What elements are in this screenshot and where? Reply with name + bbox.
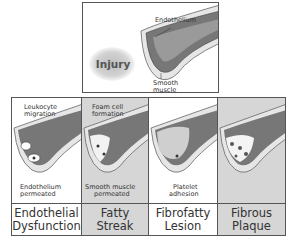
stage-label-line1: Fatty: [101, 207, 129, 220]
platelet-note-line2: adhesion: [169, 191, 199, 198]
stage-label-fatty-streak: Fatty Streak: [81, 203, 149, 236]
stage-label-line2: Lesion: [165, 220, 202, 233]
smooth-muscle-note-line2: permeated: [94, 191, 130, 198]
foam-cell-note-line2: formation: [92, 111, 124, 118]
stage-label-fibrofatty-lesion: Fibrofatty Lesion: [148, 203, 218, 236]
leukocyte-note-line2: migration: [24, 111, 55, 118]
stage-label-endothelial-dysfunction: Endothelial Dysfunction: [11, 203, 82, 236]
stage-panel-fatty-streak: Foam cell formation Smooth muscle permea…: [81, 97, 149, 204]
endothelium-note-line2: permeated: [20, 191, 56, 198]
stage-panel-fibrous-plaque: [217, 97, 286, 204]
stage-label-line2: Dysfunction: [12, 220, 81, 233]
healthy-artery-panel: Injury Endothelium Smooth muscle: [82, 2, 219, 93]
stage-label-fibrous-plaque: Fibrous Plaque: [217, 203, 286, 236]
stage-label-line1: Fibrofatty: [156, 207, 211, 220]
endothelium-annotation: Endothelium: [155, 17, 196, 24]
artery-plaque-illustration: [218, 98, 286, 204]
stage-panel-fibrofatty-lesion: Platelet adhesion: [148, 97, 218, 204]
stage-panel-endothelial-dysfunction: Leukocyte migration Endothelium permeate…: [11, 97, 82, 204]
stage-label-line1: Fibrous: [231, 207, 272, 220]
smooth-muscle-annotation-line2: muscle: [153, 87, 176, 93]
artery-cross-section-illustration: [83, 3, 219, 93]
stage-label-line2: Streak: [96, 220, 133, 233]
stage-label-line2: Plaque: [232, 220, 271, 233]
stage-label-line1: Endothelial: [14, 207, 78, 220]
